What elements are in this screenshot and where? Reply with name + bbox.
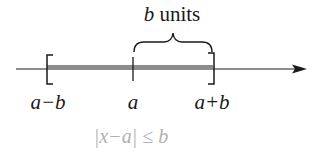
- brace-label-text: units: [159, 2, 200, 26]
- inequality-formula: |x−a| ≤ b: [94, 126, 168, 146]
- interval-bar: [47, 65, 213, 70]
- curly-brace: [134, 33, 212, 52]
- brace-label-var: b: [144, 2, 155, 26]
- label-a: a: [128, 92, 139, 113]
- brace-label: b units: [144, 4, 201, 25]
- label-a-minus-b: a−b: [30, 92, 65, 113]
- label-a-plus-b: a+b: [194, 92, 229, 113]
